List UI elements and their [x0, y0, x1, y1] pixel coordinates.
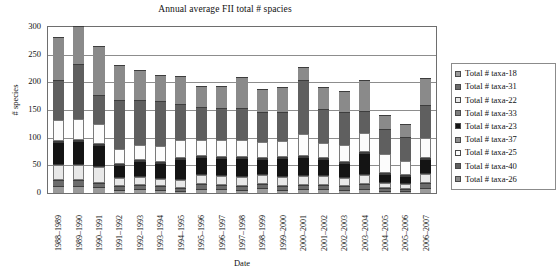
legend-item[interactable]: Total # taxa-25 [455, 146, 553, 159]
stacked-bar[interactable] [134, 71, 145, 193]
bar-segment [318, 176, 329, 185]
stacked-bar[interactable] [277, 88, 288, 193]
x-axis-tick-label: 2002–2003 [340, 215, 349, 251]
bar-segment [359, 175, 370, 184]
bar-segment [53, 165, 64, 180]
legend-item[interactable]: Total # taxa-18 [455, 67, 553, 80]
bar-segment [134, 145, 145, 160]
y-axis-tick-label: 100 [28, 132, 41, 142]
bar-slot [89, 27, 109, 193]
bar-segment [93, 145, 104, 166]
bar-segment [53, 186, 64, 193]
bar-segment [359, 80, 370, 110]
stacked-bar[interactable] [73, 27, 84, 193]
legend-swatch-icon [455, 71, 461, 77]
bar-segment [175, 76, 186, 104]
stacked-bar[interactable] [175, 77, 186, 193]
bar-segment [216, 108, 227, 140]
stacked-bar[interactable] [420, 78, 431, 193]
bars-layer [48, 27, 436, 193]
bar-segment [318, 159, 329, 176]
x-axis-tick-label: 1995–1996 [197, 215, 206, 251]
x-axis-tick-label: 2006–2007 [422, 215, 431, 251]
x-axis-label-slot: 2002–2003 [334, 196, 354, 254]
bar-segment [318, 143, 329, 158]
stacked-bar[interactable] [400, 124, 411, 193]
bar-segment [93, 124, 104, 144]
bar-segment [359, 189, 370, 193]
bar-segment [318, 109, 329, 143]
stacked-bar[interactable] [93, 47, 104, 193]
x-axis-label-slot: 1992–1993 [130, 196, 150, 254]
legend-item[interactable]: Total # taxa-23 [455, 120, 553, 133]
bar-segment [400, 137, 411, 161]
bar-segment [379, 174, 390, 182]
bar-slot [313, 27, 333, 193]
chart-title: Annual average FII total # spacies [0, 4, 450, 14]
x-axis-label-slot: 1998–1999 [252, 196, 272, 254]
x-axis-tick-label: 1988–1989 [54, 215, 63, 251]
stacked-bar[interactable] [216, 87, 227, 193]
bar-segment [73, 186, 84, 193]
bar-segment [134, 100, 145, 145]
bar-segment [400, 191, 411, 193]
y-axis-tick-label: 150 [28, 104, 41, 114]
legend-item[interactable]: Total # taxa-22 [455, 93, 553, 106]
legend-item[interactable]: Total # taxa-26 [455, 173, 553, 186]
bar-segment [73, 64, 84, 119]
bar-segment [379, 115, 390, 129]
bar-segment [257, 112, 268, 142]
stacked-bar[interactable] [114, 66, 125, 193]
bar-segment [114, 65, 125, 100]
legend-item-label: Total # taxa-22 [465, 96, 517, 105]
bar-slot [395, 27, 415, 193]
stacked-bar[interactable] [298, 68, 309, 193]
x-axis-tick-label: 1998–1999 [258, 215, 267, 251]
bar-segment [196, 175, 207, 184]
bar-segment [134, 177, 145, 185]
stacked-bar[interactable] [53, 38, 64, 193]
stacked-bar[interactable] [359, 81, 370, 193]
bar-segment [359, 111, 370, 134]
bar-slot [130, 27, 150, 193]
stacked-bar[interactable] [318, 88, 329, 193]
legend-item[interactable]: Total # taxa-31 [455, 80, 553, 93]
stacked-bar[interactable] [196, 87, 207, 193]
x-axis-title: Date [47, 258, 437, 268]
stacked-bar[interactable] [155, 76, 166, 193]
bar-segment [420, 138, 431, 158]
x-axis-label-slot: 2001–2002 [313, 196, 333, 254]
bar-segment [114, 190, 125, 193]
bar-slot [191, 27, 211, 193]
bar-slot [211, 27, 231, 193]
bar-segment [339, 112, 350, 145]
bar-segment [339, 178, 350, 186]
legend-item-label: Total # taxa-31 [465, 82, 517, 91]
y-axis-tick-label: 50 [33, 159, 42, 169]
stacked-bar[interactable] [257, 90, 268, 193]
x-axis-tick-label: 1996–1997 [218, 215, 227, 251]
x-axis-label-slot: 1993–1994 [150, 196, 170, 254]
legend-item-label: Total # taxa-23 [465, 122, 517, 131]
bar-segment [420, 174, 431, 183]
bar-slot [252, 27, 272, 193]
bar-slot [171, 27, 191, 193]
x-axis-label-slot: 1989–1990 [68, 196, 88, 254]
bar-segment [257, 175, 268, 183]
bar-segment [216, 158, 227, 176]
x-axis-tick-label: 2000–2001 [299, 215, 308, 251]
bar-segment [420, 159, 431, 173]
stacked-bar[interactable] [379, 116, 390, 193]
bar-slot [48, 27, 68, 193]
bar-segment [257, 188, 268, 193]
legend-item[interactable]: Total # taxa-33 [455, 107, 553, 120]
stacked-bar[interactable] [339, 92, 350, 193]
bar-segment [114, 178, 125, 186]
stacked-bar[interactable] [236, 78, 247, 193]
legend-item[interactable]: Total # taxa-37 [455, 133, 553, 146]
bar-slot [109, 27, 129, 193]
bar-segment [379, 129, 390, 154]
legend-swatch-icon [455, 97, 461, 103]
bar-slot [150, 27, 170, 193]
legend-item[interactable]: Total # taxa-40 [455, 159, 553, 172]
